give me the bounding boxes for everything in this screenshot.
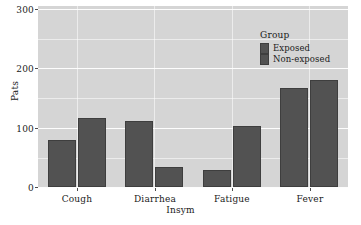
x-tick-mark-cough — [77, 188, 78, 191]
x-axis-title: Insym — [0, 205, 361, 215]
bar-chart: Group Exposed Non-exposed 300 200 100 0 … — [0, 0, 361, 225]
x-tick-label-diarrhea: Diarrhea — [123, 194, 187, 204]
bar-fatigue-exposed — [203, 170, 231, 187]
y-tick-mark-300 — [35, 9, 38, 10]
legend-item-exposed[interactable]: Exposed — [260, 43, 348, 54]
legend-swatch-exposed — [260, 43, 269, 54]
bar-fatigue-non-exposed — [233, 126, 261, 187]
bar-diarrhea-exposed — [125, 121, 153, 187]
legend: Group Exposed Non-exposed — [260, 30, 348, 65]
legend-label-non-exposed: Non-exposed — [273, 54, 330, 65]
x-tick-label-fever: Fever — [278, 194, 342, 204]
bar-fever-non-exposed — [310, 80, 338, 187]
bar-fever-exposed — [280, 88, 308, 187]
y-tick-mark-200 — [35, 68, 38, 69]
plot-panel: Group Exposed Non-exposed — [38, 6, 348, 188]
bar-cough-exposed — [48, 140, 76, 187]
x-tick-mark-fever — [310, 188, 311, 191]
y-tick-label-300: 300 — [0, 6, 34, 15]
x-tick-mark-diarrhea — [155, 188, 156, 191]
legend-label-exposed: Exposed — [273, 43, 310, 54]
y-tick-label-100: 100 — [0, 125, 34, 134]
y-tick-label-0: 0 — [0, 184, 34, 193]
x-tick-label-fatigue: Fatigue — [200, 194, 264, 204]
x-tick-mark-fatigue — [232, 188, 233, 191]
legend-title: Group — [260, 30, 348, 41]
bar-cough-non-exposed — [78, 118, 106, 187]
y-tick-mark-0 — [35, 187, 38, 188]
x-tick-label-cough: Cough — [45, 194, 109, 204]
legend-swatch-non-exposed — [260, 54, 269, 65]
legend-item-non-exposed[interactable]: Non-exposed — [260, 54, 348, 65]
y-axis-title: Pats — [10, 71, 20, 111]
bar-diarrhea-non-exposed — [155, 167, 183, 187]
y-tick-mark-100 — [35, 128, 38, 129]
